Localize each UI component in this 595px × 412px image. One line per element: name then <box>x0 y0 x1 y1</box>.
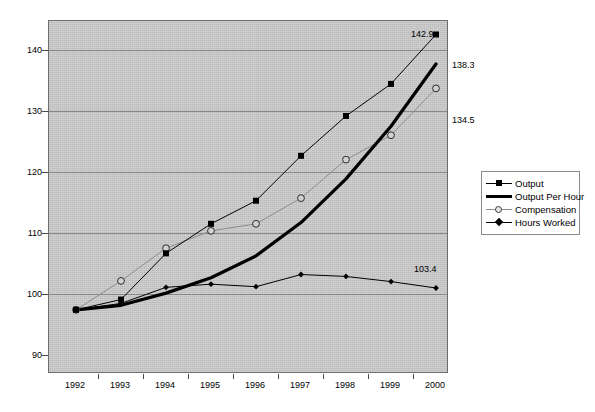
chart-container: 140 130 120 110 100 90 142.9 138.3 <box>0 0 595 412</box>
x-axis-tick-2 <box>188 374 189 379</box>
x-axis-label-1992: 1992 <box>52 381 98 390</box>
series-line-output-per-hour <box>76 64 436 310</box>
legend-label-output-per-hour: Output Per Hour <box>512 191 584 202</box>
x-axis-tick-1 <box>143 374 144 379</box>
legend-marker-diamond-icon <box>486 217 512 228</box>
legend-item-output-per-hour[interactable]: Output Per Hour <box>486 190 575 203</box>
y-axis-label-140: 140 <box>2 46 42 55</box>
x-axis-tick-4 <box>278 374 279 379</box>
x-axis-label-1998: 1998 <box>322 381 368 390</box>
data-label-hours-worked: 103.4 <box>414 265 437 274</box>
data-label-compensation: 134.5 <box>452 116 475 125</box>
y-axis-label-120: 120 <box>2 168 42 177</box>
y-axis-label-110: 110 <box>2 229 42 238</box>
legend-item-output[interactable]: Output <box>486 177 575 190</box>
x-axis-tick-5 <box>323 374 324 379</box>
data-label-output-per-hour: 138.3 <box>452 61 475 70</box>
x-axis-tick-0 <box>98 374 99 379</box>
data-label-output: 142.9 <box>411 30 434 39</box>
x-axis-label-1999: 1999 <box>367 381 413 390</box>
y-axis-label-130: 130 <box>2 107 42 116</box>
legend-marker-thick-line-icon <box>486 191 512 202</box>
x-axis-label-2000: 2000 <box>412 381 458 390</box>
series-line-output <box>76 34 436 309</box>
legend: Output Output Per Hour Compensation Hour… <box>481 171 580 235</box>
series-markers-output <box>73 31 439 312</box>
legend-item-hours-worked[interactable]: Hours Worked <box>486 216 575 229</box>
x-axis-label-1993: 1993 <box>97 381 143 390</box>
series-plot-layer <box>49 21 448 373</box>
x-axis-label-1996: 1996 <box>232 381 278 390</box>
x-axis-tick-3 <box>233 374 234 379</box>
legend-marker-square-icon <box>486 178 512 189</box>
legend-label-hours-worked: Hours Worked <box>512 217 576 228</box>
legend-label-output: Output <box>512 178 544 189</box>
x-axis-tick-6 <box>368 374 369 379</box>
plot-area <box>48 20 448 373</box>
x-axis-label-1997: 1997 <box>277 381 323 390</box>
x-axis-tick-7 <box>413 374 414 379</box>
legend-label-compensation: Compensation <box>512 204 576 215</box>
x-axis-label-1994: 1994 <box>142 381 188 390</box>
y-axis-label-100: 100 <box>2 290 42 299</box>
x-axis-label-1995: 1995 <box>187 381 233 390</box>
y-axis-label-90: 90 <box>2 351 42 360</box>
legend-marker-circle-icon <box>486 204 512 215</box>
legend-item-compensation[interactable]: Compensation <box>486 203 575 216</box>
